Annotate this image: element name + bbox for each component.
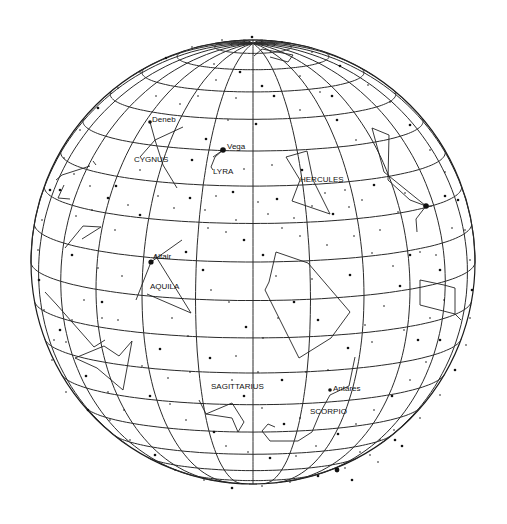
star [187, 335, 189, 337]
star [261, 407, 263, 409]
star [225, 231, 227, 233]
star [63, 157, 65, 159]
star [331, 95, 334, 98]
star [257, 371, 259, 373]
star [87, 409, 90, 412]
star [391, 395, 394, 398]
star [257, 201, 259, 203]
star [204, 209, 206, 211]
star [228, 301, 230, 303]
star [117, 87, 119, 89]
star [49, 189, 52, 192]
star [221, 39, 223, 41]
star [189, 371, 191, 373]
star [38, 279, 41, 282]
star [359, 451, 361, 453]
star [97, 107, 100, 110]
star [232, 191, 235, 194]
star [213, 63, 215, 65]
star [394, 439, 397, 442]
star [469, 259, 471, 261]
star [419, 417, 421, 419]
star [109, 419, 111, 421]
star [154, 454, 157, 457]
star [399, 285, 402, 288]
star [261, 85, 264, 88]
star [71, 254, 74, 257]
star [117, 319, 119, 321]
star [324, 192, 326, 194]
star [127, 204, 129, 206]
star [443, 299, 445, 301]
star [121, 275, 123, 277]
label-scorpio: SCORPIO [310, 407, 347, 416]
star [107, 197, 110, 200]
star [349, 274, 352, 277]
star [327, 369, 329, 371]
label-cygnus: CYGNUS [134, 155, 168, 164]
star [173, 207, 175, 209]
star [383, 305, 385, 307]
label-altair: Altair [153, 252, 172, 261]
star [429, 317, 431, 319]
star [311, 205, 313, 207]
star [139, 169, 141, 171]
star [392, 265, 394, 267]
star [53, 339, 55, 341]
star [43, 309, 45, 311]
star [245, 326, 248, 329]
star [225, 445, 227, 447]
star [444, 171, 446, 173]
star [209, 357, 212, 360]
star [149, 395, 152, 398]
star [97, 267, 99, 269]
star [439, 339, 442, 342]
star [373, 184, 376, 187]
star [271, 164, 273, 166]
star [139, 71, 141, 73]
star [299, 417, 301, 419]
star [267, 213, 269, 215]
star [435, 254, 437, 256]
star [299, 109, 301, 111]
star [41, 219, 43, 221]
star [165, 57, 168, 60]
label-sagittarius: SAGITTARIUS [211, 382, 264, 391]
star [419, 251, 421, 253]
star [311, 278, 313, 280]
star [123, 409, 125, 411]
star [371, 341, 373, 343]
star [141, 365, 143, 367]
star [174, 469, 176, 471]
star [202, 269, 205, 272]
bright-star-arcturus [423, 203, 429, 209]
star [439, 269, 442, 272]
star [65, 341, 67, 343]
star [261, 485, 263, 487]
star [311, 51, 313, 53]
star [213, 431, 216, 434]
star [235, 97, 237, 99]
star [344, 467, 346, 469]
star [454, 369, 457, 372]
star [347, 347, 350, 350]
star [91, 209, 93, 211]
star [439, 394, 441, 396]
star [401, 445, 404, 448]
star [205, 138, 208, 141]
star [417, 339, 420, 342]
star [75, 215, 77, 217]
star [353, 235, 355, 237]
star [59, 329, 62, 332]
star [197, 95, 199, 97]
star [215, 195, 217, 197]
star [101, 301, 104, 304]
star [397, 211, 399, 213]
label-antares: Antares [333, 384, 361, 393]
star [299, 235, 301, 237]
label-aquila: AQUILA [150, 282, 180, 291]
star [247, 451, 249, 453]
star [129, 439, 131, 441]
star [344, 189, 346, 191]
star [364, 324, 366, 326]
